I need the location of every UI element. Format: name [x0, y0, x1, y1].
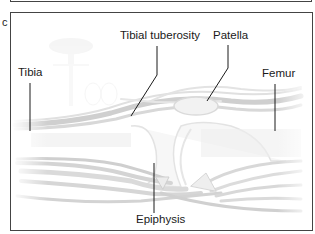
label-epiphysis: Epiphysis: [136, 213, 185, 225]
previous-panel-border: [10, 0, 312, 2]
panel-letter: c: [2, 16, 8, 28]
label-tibia: Tibia: [18, 66, 43, 78]
label-tibial-tuberosity: Tibial tuberosity: [120, 29, 200, 41]
diagram-panel: [10, 12, 313, 231]
knee-anatomy-illustration: [11, 13, 313, 231]
label-patella: Patella: [213, 29, 248, 41]
label-femur: Femur: [262, 67, 295, 79]
